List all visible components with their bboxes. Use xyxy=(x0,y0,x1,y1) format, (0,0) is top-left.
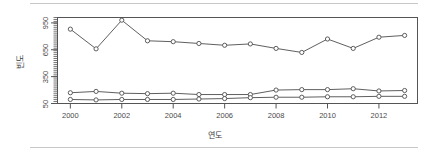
series-marker xyxy=(94,98,98,102)
series-marker xyxy=(171,40,175,44)
plot-border xyxy=(58,18,418,104)
x-tick-label: 2010 xyxy=(312,111,344,120)
series-marker xyxy=(403,94,407,98)
series-marker xyxy=(403,88,407,92)
data-series xyxy=(68,18,406,54)
series-marker xyxy=(94,89,98,93)
x-tick-label: 2004 xyxy=(157,111,189,120)
y-axis-title: 빈도 xyxy=(14,51,25,73)
series-marker xyxy=(171,97,175,101)
series-marker xyxy=(94,47,98,51)
series-marker xyxy=(223,92,227,96)
series-marker xyxy=(300,88,304,92)
screenshot-root: 50350650950 2000200220042006200820102012… xyxy=(0,0,440,156)
series-marker xyxy=(145,39,149,43)
x-tick-label: 2012 xyxy=(363,111,395,120)
x-tick-label: 2000 xyxy=(54,111,86,120)
series-marker xyxy=(223,43,227,47)
series-marker xyxy=(68,91,72,95)
series-marker xyxy=(248,96,252,100)
series-marker xyxy=(68,97,72,101)
series-marker xyxy=(197,97,201,101)
plot-frame xyxy=(58,18,418,104)
series-marker xyxy=(351,95,355,99)
series-marker xyxy=(145,92,149,96)
series-marker xyxy=(223,96,227,100)
series-marker xyxy=(248,42,252,46)
series-marker xyxy=(120,91,124,95)
x-tick-label: 2008 xyxy=(260,111,292,120)
series-marker xyxy=(197,92,201,96)
series-marker xyxy=(120,97,124,101)
series-marker xyxy=(300,95,304,99)
x-tick-label: 2002 xyxy=(106,111,138,120)
series-marker xyxy=(274,95,278,99)
y-axis-minor-ticks xyxy=(54,18,58,104)
series-marker xyxy=(145,97,149,101)
series-marker xyxy=(351,87,355,91)
series-marker xyxy=(300,50,304,54)
y-tick-label: 650 xyxy=(41,39,50,61)
x-axis-major-ticks xyxy=(70,104,379,109)
x-axis-title: 연도 xyxy=(208,129,222,140)
series-marker xyxy=(68,27,72,31)
series-marker xyxy=(377,89,381,93)
data-series xyxy=(68,94,406,102)
series-marker xyxy=(325,37,329,41)
series-marker xyxy=(325,88,329,92)
series-marker xyxy=(351,46,355,50)
y-tick-label: 950 xyxy=(41,12,50,34)
data-series xyxy=(68,87,406,97)
series-marker xyxy=(325,95,329,99)
series-marker xyxy=(197,41,201,45)
x-tick-label: 2006 xyxy=(209,111,241,120)
chart-figure: 50350650950 2000200220042006200820102012… xyxy=(0,0,440,156)
series-marker xyxy=(377,94,381,98)
y-tick-label: 350 xyxy=(41,66,50,88)
series-marker xyxy=(377,35,381,39)
series-marker xyxy=(120,18,124,22)
series-marker xyxy=(403,33,407,37)
series-marker xyxy=(171,91,175,95)
series-marker xyxy=(274,46,278,50)
data-series-layer xyxy=(68,18,406,102)
y-tick-label: 50 xyxy=(41,93,50,115)
series-marker xyxy=(274,88,278,92)
